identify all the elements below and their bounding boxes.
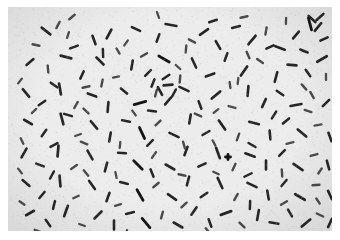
bacterium-rod — [281, 180, 286, 186]
bacterium-rod — [106, 193, 109, 201]
bacterium-rod — [101, 80, 102, 87]
bacterium-rod — [109, 133, 111, 142]
bacterium-rod — [134, 161, 142, 169]
bacterium-rod — [189, 115, 191, 124]
bacterium-rod — [27, 59, 34, 65]
bacterium-rod — [230, 82, 231, 88]
bacterium-rod — [244, 173, 251, 177]
bacterium-rod — [275, 72, 278, 82]
bacterium-rod — [229, 106, 236, 108]
bacterium-rod — [241, 66, 247, 75]
bacterium-rod — [141, 53, 147, 57]
bacterium-rod — [257, 59, 263, 63]
bacterium-rod — [71, 165, 77, 169]
bacterium-rod — [198, 163, 205, 166]
micrograph-field — [8, 7, 332, 231]
bacterium-rod — [195, 114, 201, 117]
bacterium-rod — [163, 75, 170, 79]
bacterium-rod — [315, 124, 322, 125]
bacterium-rod — [206, 73, 214, 76]
bacterium-rod — [306, 70, 311, 77]
bacterium-rod — [39, 192, 44, 198]
bacterium-rod — [275, 46, 284, 49]
bacterium-rod — [213, 140, 216, 145]
bacterium-rod — [176, 65, 180, 69]
bacterium-rod — [115, 172, 116, 178]
bacterium-rod — [139, 128, 144, 139]
bacterium-rod — [36, 164, 44, 167]
bacterium-rod — [317, 14, 324, 20]
bacterium-rod — [116, 48, 119, 53]
bacterium-rod — [266, 45, 273, 48]
bacterium-rod — [166, 165, 175, 170]
bacterium-rod — [137, 190, 143, 200]
bacterium-rod — [50, 143, 57, 147]
bacterium-rod — [287, 142, 294, 144]
bacterium-rod — [315, 23, 321, 31]
bacterium-rod — [186, 46, 187, 53]
bacterium-rod — [155, 90, 157, 97]
bacterium-rod — [164, 85, 173, 86]
bacterium-rod — [238, 78, 239, 84]
bacterium-rod — [277, 91, 284, 96]
bacterium-rod — [166, 24, 177, 26]
bacterium-rod — [313, 185, 320, 186]
bacterium-rod — [59, 84, 61, 95]
bacterium-rod — [88, 151, 93, 160]
bacterium-rod — [192, 58, 196, 67]
bacterium-rod — [310, 92, 314, 98]
bacterium-rod — [219, 120, 225, 129]
bacterium-rod — [267, 191, 269, 200]
bacterium-rod — [209, 20, 217, 22]
bacterium-rod — [291, 104, 302, 106]
bacterium-rod — [35, 230, 42, 231]
bacterium-rod — [308, 18, 311, 30]
bacterium-rod — [107, 30, 112, 39]
bacterium-rod — [118, 153, 126, 154]
bacterium-rod — [115, 204, 121, 206]
bacterium-rod — [159, 56, 169, 62]
bacterium-rod — [240, 223, 245, 228]
bacterium-rod — [288, 210, 292, 217]
bacterium-rod — [126, 212, 134, 214]
bacterium-rod — [279, 150, 285, 156]
bacterium-rod — [18, 169, 22, 174]
bacterium-rod — [32, 109, 36, 113]
bacterium-rod — [134, 101, 146, 104]
bacterium-rod — [206, 228, 211, 231]
bacterium-rod — [58, 146, 59, 157]
bacteria-cells-layer — [8, 7, 332, 231]
bacterium-rod — [120, 142, 121, 148]
bacterium-rod — [145, 70, 151, 76]
bacterium-rod — [302, 219, 310, 226]
bacterium-rod — [181, 203, 186, 208]
bacterium-rod — [26, 211, 34, 216]
bacterium-rod — [92, 36, 95, 44]
bacterium-rod — [247, 52, 250, 58]
bacterium-rod — [270, 131, 271, 140]
bacterium-rod — [22, 149, 27, 158]
bacterium-rod — [168, 194, 176, 200]
bacterium-rod — [212, 91, 220, 98]
bacterium-rod — [42, 28, 51, 35]
bacterium-rod — [75, 134, 81, 136]
bacterium-rod — [257, 210, 259, 220]
bacterium-rod — [24, 120, 32, 125]
bacterium-rod — [157, 34, 160, 42]
micrograph-viewport — [0, 0, 340, 240]
bacterium-rod — [23, 180, 30, 186]
bacterium-rod — [241, 16, 248, 17]
bacterium-rod — [283, 118, 289, 123]
bacterium-rod — [317, 214, 323, 217]
bacterium-rod — [281, 201, 287, 205]
bacterium-rod — [225, 53, 228, 61]
bacterium-rod — [142, 218, 150, 227]
bacterium-rod — [69, 15, 74, 20]
bacterium-rod — [153, 183, 158, 188]
bacterium-rod — [122, 120, 130, 121]
bacterium-rod — [20, 201, 25, 204]
bacterium-rod — [91, 121, 97, 129]
bacterium-rod — [53, 201, 55, 209]
bacterium-rod — [132, 27, 140, 31]
bacterium-rod — [113, 76, 119, 77]
